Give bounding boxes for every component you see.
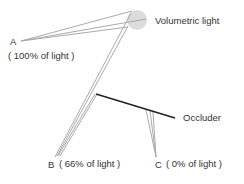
volumetric-light-source [127,10,147,30]
occluder-label: Occluder [183,113,221,123]
point-a-label: A [10,37,16,47]
volumetric-light-label: Volumetric light [155,16,219,26]
rays-from-c [146,110,156,157]
point-a-sublabel: ( 100% of light ) [8,51,75,61]
diagram-canvas [0,0,244,184]
point-b-label: B [48,160,54,170]
point-c-sublabel: ( 0% of light ) [166,159,222,169]
occluder [96,94,175,118]
point-c-label: C [155,160,162,170]
point-b-sublabel: ( 66% of light ) [59,159,120,169]
rays-from-a [21,11,146,41]
